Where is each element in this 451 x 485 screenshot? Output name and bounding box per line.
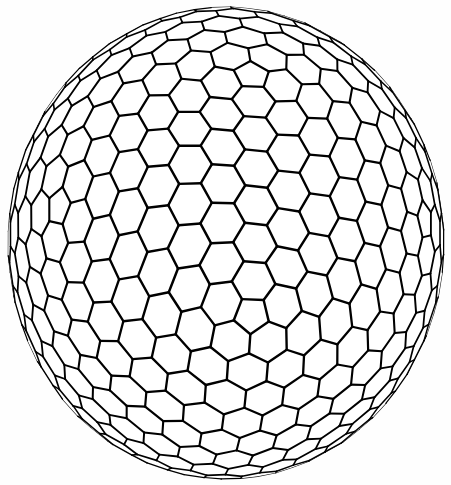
figure-root (0, 0, 451, 485)
bond-edge-front (182, 22, 201, 23)
bond-edge-front (133, 358, 152, 359)
bond-edge-front (227, 361, 228, 380)
bond-edge-front (146, 391, 165, 392)
bond-edge-front (109, 415, 110, 425)
bond-edge-front (32, 305, 33, 321)
bond-edge-front (205, 385, 206, 403)
bond-edge-front (277, 135, 298, 136)
bond-edge-front (64, 365, 65, 379)
bond-edge-front (127, 406, 145, 407)
bond-edge-front (143, 432, 144, 443)
bond-edge-front (242, 299, 264, 300)
bond-edge-front (221, 478, 240, 479)
bond-edge-front (242, 86, 264, 87)
bond-edge-front (194, 464, 213, 465)
bond-edge-front (156, 63, 176, 64)
bond-edge-front (266, 363, 268, 382)
bond-edge-front (244, 261, 266, 263)
bond-edge-front (276, 101, 297, 102)
bond-edge-front (264, 33, 283, 34)
bond-edge-front (368, 330, 369, 350)
bond-edge-front (303, 355, 304, 374)
bond-edge-front (179, 183, 201, 184)
bond-edge-front (394, 314, 395, 334)
bond-edge-front (10, 247, 11, 263)
bond-edge-front (212, 164, 234, 166)
bond-edge-front (303, 43, 304, 54)
bond-edge-front (94, 302, 112, 303)
bond-edge-front (395, 332, 406, 333)
bond-edge-front (183, 405, 184, 421)
bond-edge-front (162, 421, 163, 434)
bond-edge-front (68, 242, 84, 243)
bond-edge-front (191, 51, 211, 52)
bond-edge-front (18, 276, 19, 292)
bond-edge-front (68, 282, 84, 283)
bond-edge-front (145, 392, 146, 407)
bond-edge-front (244, 116, 266, 118)
bond-edge-front (111, 376, 129, 377)
bond-edge-front (148, 129, 168, 131)
bond-edge-front (333, 101, 350, 103)
fullerene-wireframe-figure (0, 0, 451, 485)
bond-edge-front (196, 11, 216, 12)
bond-edge-front (368, 350, 382, 351)
bond-edge-front (381, 351, 382, 368)
bond-edge-front (394, 107, 395, 118)
bond-edge-front (319, 317, 321, 340)
bond-edge-front (180, 446, 199, 447)
bond-edge-front (368, 81, 369, 92)
bond-edge-front (405, 332, 406, 348)
bond-edge-front (307, 439, 321, 440)
bond-edge-front (308, 118, 327, 119)
bond-edge-front (207, 475, 226, 476)
bond-edge-front (168, 39, 188, 40)
bond-edge-front (249, 334, 250, 353)
bond-edge-front (415, 295, 416, 313)
bond-edge-front (212, 203, 234, 204)
bond-edge-front (211, 242, 233, 243)
